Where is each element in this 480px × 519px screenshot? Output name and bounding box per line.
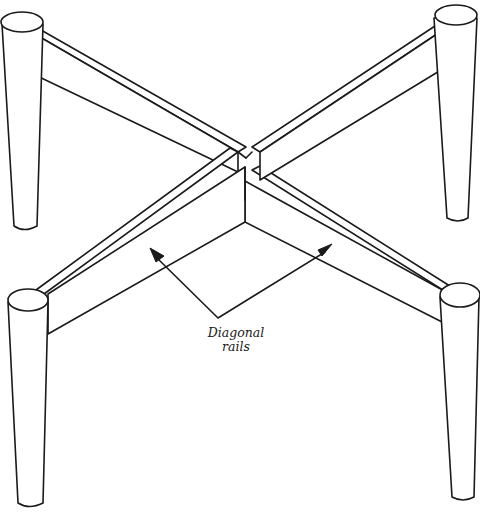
- table-base-illustration: Diagonal rails: [0, 0, 480, 519]
- leg-bottom-right: [440, 283, 480, 500]
- callout-label-line1: Diagonal: [207, 325, 265, 340]
- callout-label-line2: rails: [222, 339, 250, 354]
- leg-top-left: [1, 12, 43, 230]
- leg-bottom-left: [8, 289, 48, 507]
- leg-top-right: [434, 5, 477, 221]
